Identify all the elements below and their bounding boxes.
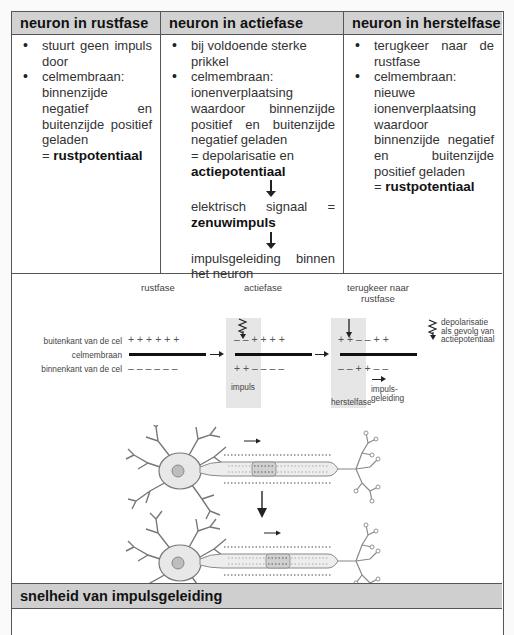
membrane-line-recovery: [340, 353, 417, 356]
phase-title-recovery: terugkeer naar rustfase: [338, 282, 418, 304]
column-herstelfase: neuron in herstelfase terugkeer naar de …: [343, 12, 502, 273]
label-outside: buitenkant van de cel: [38, 336, 122, 346]
label-inside: binnenkant van de cel: [38, 364, 122, 374]
arrow-down-icon: [265, 231, 277, 251]
conduction-label: impuls- geleiding: [371, 385, 404, 403]
depolarization-zigzag-icon: [427, 319, 439, 341]
conduction-arrow-icon: [372, 379, 382, 380]
phase-title-rest: rustfase: [141, 282, 175, 293]
key-term: rustpotentiaal: [385, 179, 474, 194]
document-page: neuron in rustfase stuurt geen impuls do…: [11, 11, 504, 635]
column-header: neuron in actiefase: [161, 12, 343, 35]
key-term: rustpotentiaal: [53, 148, 142, 163]
list-item: terugkeer naar de rustfase: [352, 38, 494, 69]
list-item: stuurt geen impuls door: [20, 38, 152, 69]
phase-title-action: actiefase: [244, 282, 282, 293]
charge-outside-rest: + + + + + +: [128, 333, 179, 345]
charge-outside-recovery: + + – – + +: [338, 333, 389, 345]
list-item: celmembraan: binnenzijde negatief en bui…: [20, 69, 152, 163]
charge-outside-action: – – + + + +: [234, 333, 285, 345]
key-term: actiepotentiaal: [191, 164, 286, 179]
list-item: bij voldoende sterke prikkel: [169, 38, 335, 69]
recovery-label: herstelfase: [331, 397, 372, 407]
membrane-line-action: [235, 353, 312, 356]
legend-depolarization: depolarisatie als gevolg van actiepotent…: [441, 318, 495, 344]
column-rustfase: neuron in rustfase stuurt geen impuls do…: [12, 12, 160, 273]
list-item: celmembraan: ionenverplaatsing waardoor …: [169, 69, 335, 282]
charge-inside-recovery: – – + + – –: [338, 362, 388, 374]
section-title: snelheid van impulsgeleiding: [12, 583, 502, 609]
membrane-diagram: rustfase actiefase terugkeer naar rustfa…: [12, 275, 502, 583]
impulse-label: impuls: [231, 382, 255, 392]
neuron-illustration: [112, 425, 412, 583]
key-term: zenuwimpuls: [191, 215, 276, 230]
charge-inside-action: + + – – – –: [234, 362, 284, 374]
column-header: neuron in rustfase: [12, 12, 160, 35]
charge-inside-rest: – – – – – –: [128, 362, 178, 374]
label-membrane: celmembraan: [38, 350, 122, 360]
membrane-line-rest: [129, 353, 206, 356]
arrow-down-icon: [265, 179, 277, 199]
list-item: celmembraan: nieuwe ionenverplaatsing wa…: [352, 69, 494, 195]
column-actiefase: neuron in actiefase bij voldoende sterke…: [160, 12, 343, 273]
arrow-right-icon: [210, 354, 220, 355]
column-header: neuron in herstelfase: [344, 12, 502, 35]
phase-table: neuron in rustfase stuurt geen impuls do…: [12, 12, 502, 274]
arrow-right-icon: [315, 354, 325, 355]
